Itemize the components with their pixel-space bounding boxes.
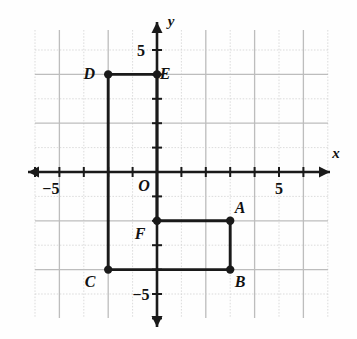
x-tick-label-5: 5 [275, 180, 283, 197]
x-axis-label: x [331, 145, 340, 161]
x-axis-arrow-left [28, 167, 39, 178]
y-tick-label-5: 5 [137, 42, 145, 59]
vertex-point-b [226, 265, 234, 273]
y-axis-arrow-up [152, 22, 163, 33]
x-axis-arrow-right [319, 167, 330, 178]
vertex-point-d [104, 70, 112, 78]
vertex-label-e: E [159, 65, 171, 82]
vertex-point-c [104, 265, 112, 273]
y-tick-label-neg5: −5 [132, 286, 149, 303]
vertex-label-f: F [134, 225, 146, 242]
axes [28, 22, 330, 327]
tick-labels: 5−55−5Oxy [42, 13, 340, 303]
coordinate-plane-figure: 5−55−5Oxy ABCDEF [0, 0, 357, 339]
origin-label: O [138, 177, 150, 194]
x-tick-label-neg5: −5 [42, 180, 59, 197]
vertex-label-b: B [234, 273, 246, 290]
vertex-point-f [153, 217, 161, 225]
vertex-point-a [226, 217, 234, 225]
y-axis-label: y [166, 13, 175, 29]
vertex-label-a: A [234, 199, 246, 216]
vertex-label-c: C [85, 273, 96, 290]
coordinate-plane-svg: 5−55−5Oxy ABCDEF [0, 0, 357, 339]
vertex-label-d: D [82, 65, 95, 82]
